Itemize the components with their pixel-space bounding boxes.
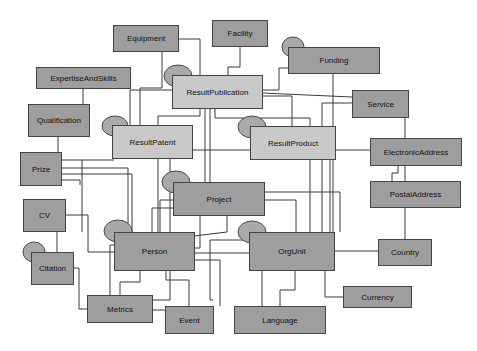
entity-label: Project: [207, 195, 232, 204]
entity-relationship-diagram: Equipment Facility Funding ExpertiseAndS…: [0, 0, 477, 351]
entity-funding[interactable]: Funding: [288, 47, 380, 74]
entity-person[interactable]: Person: [114, 232, 195, 271]
entity-electronic-address[interactable]: ElectronicAddress: [370, 138, 462, 166]
entity-metrics[interactable]: Metrics: [87, 295, 153, 323]
entity-orgunit[interactable]: OrgUnit: [249, 232, 335, 271]
entity-label: Equipment: [127, 34, 165, 43]
entity-currency[interactable]: Currency: [343, 286, 412, 308]
entity-project[interactable]: Project: [173, 182, 265, 216]
entity-country[interactable]: Country: [378, 239, 432, 266]
entity-label: Metrics: [107, 305, 133, 314]
entity-label: Person: [142, 247, 167, 256]
entity-label: CV: [39, 211, 50, 220]
entity-label: ResultProduct: [268, 139, 318, 148]
entity-result-product[interactable]: ResultProduct: [250, 126, 336, 160]
entity-label: PostalAddress: [390, 190, 442, 199]
entity-label: Citation: [39, 264, 66, 273]
entity-label: Language: [262, 316, 298, 325]
entity-expertise-and-skills[interactable]: ExpertiseAndSkills: [36, 67, 131, 89]
entity-label: Prize: [32, 165, 50, 174]
entity-label: Qualification: [37, 116, 81, 125]
entity-prize[interactable]: Prize: [20, 152, 62, 186]
entity-label: Event: [179, 316, 199, 325]
entity-language[interactable]: Language: [234, 306, 326, 334]
entity-label: ElectronicAddress: [384, 148, 448, 157]
entity-label: Facility: [228, 29, 253, 38]
entity-postal-address[interactable]: PostalAddress: [370, 181, 461, 208]
entity-label: Service: [367, 100, 394, 109]
entity-label: Funding: [320, 56, 349, 65]
entity-result-publication[interactable]: ResultPublication: [172, 75, 263, 109]
entity-label: Currency: [361, 293, 393, 302]
entity-label: Country: [391, 248, 419, 257]
entity-label: ResultPatent: [130, 138, 176, 147]
entity-label: OrgUnit: [278, 247, 306, 256]
entity-citation[interactable]: Citation: [31, 252, 74, 285]
entity-service[interactable]: Service: [352, 90, 409, 118]
entity-result-patent[interactable]: ResultPatent: [112, 125, 193, 159]
entity-qualification[interactable]: Qualification: [28, 104, 90, 137]
entity-event[interactable]: Event: [165, 306, 214, 334]
entity-equipment[interactable]: Equipment: [113, 25, 179, 52]
entity-label: ExpertiseAndSkills: [50, 74, 116, 83]
entity-cv[interactable]: CV: [23, 199, 66, 232]
entity-facility[interactable]: Facility: [212, 20, 268, 47]
entity-label: ResultPublication: [187, 88, 249, 97]
